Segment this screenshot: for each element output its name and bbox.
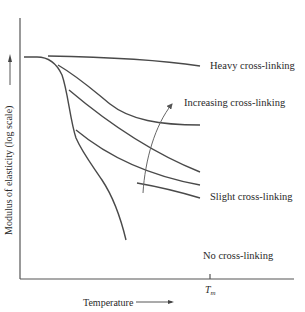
curve-slight-cross-linking [137,183,200,198]
curve-heavy-cross-linking [48,56,200,66]
x-axis-label: Temperature [83,297,134,308]
curve-cross-linking-1 [76,130,200,185]
y-axis-label: Modulus of elasticity (log scale) [3,106,15,235]
y-axis-label-group: Modulus of elasticity (log scale) [3,106,15,235]
label-heavy: Heavy cross-linking [210,60,296,71]
label-increasing: Increasing cross-linking [184,97,286,108]
label-slight: Slight cross-linking [210,191,293,202]
curve-no-cross-linking [24,57,126,240]
y-axis-arrowhead-icon [8,54,12,62]
tm-label: Tm [205,284,216,297]
label-none: No cross-linking [203,250,274,261]
increasing-arrow [143,104,172,193]
curve-cross-linking-3 [58,65,200,125]
cross-linking-modulus-diagram: Heavy cross-linking Increasing cross-lin… [0,0,305,312]
x-axis-arrowhead-icon [168,300,174,304]
